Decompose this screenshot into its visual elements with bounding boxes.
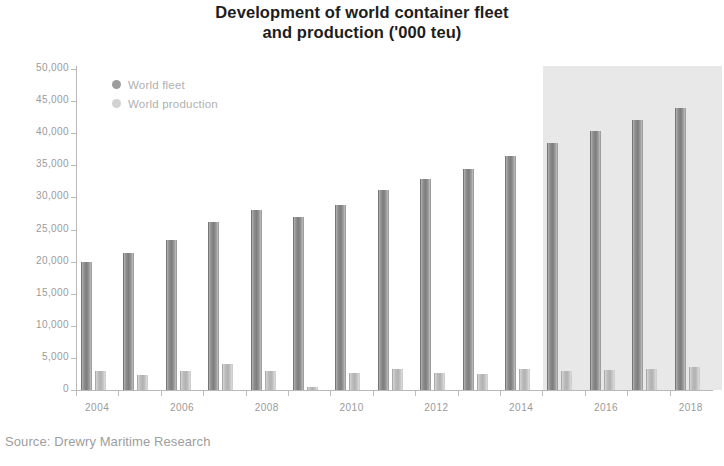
x-axis-tick (203, 391, 204, 396)
legend-dot-production-icon (112, 99, 121, 108)
legend-dot-fleet-icon (112, 80, 121, 89)
x-axis-label: 2004 (85, 402, 109, 413)
bar-world-fleet (420, 179, 431, 390)
y-axis-tick (71, 262, 77, 263)
bar-world-fleet (378, 190, 389, 390)
chart-title: Development of world container fleet and… (0, 2, 724, 42)
x-axis-label: 2016 (594, 402, 618, 413)
x-axis-label: 2008 (255, 402, 279, 413)
x-axis-tick (76, 391, 77, 396)
x-axis-label: 2012 (424, 402, 448, 413)
y-axis-tick (71, 230, 77, 231)
x-axis-tick (118, 391, 119, 396)
legend-label-world-production: World production (128, 98, 218, 110)
bar-world-production (349, 373, 360, 390)
bar-world-production (477, 374, 488, 390)
y-axis-label: 30,000 (5, 190, 69, 201)
x-axis-label: 2010 (339, 402, 363, 413)
y-axis-label: 35,000 (5, 158, 69, 169)
bar-world-fleet (166, 240, 177, 390)
bar-world-fleet (81, 262, 92, 390)
bar-world-fleet (590, 131, 601, 390)
x-axis-tick (500, 391, 501, 396)
y-axis-tick (71, 197, 77, 198)
chart-title-line-1: Development of world container fleet (0, 2, 724, 22)
x-axis-tick (330, 391, 331, 396)
y-axis-label: 45,000 (5, 94, 69, 105)
plot-area (76, 69, 712, 390)
source-note: Source: Drewry Maritime Research (5, 434, 210, 449)
y-axis-label: 40,000 (5, 126, 69, 137)
y-axis-label: 0 (5, 383, 69, 394)
bar-world-production (180, 371, 191, 390)
bar-world-production (519, 369, 530, 390)
chart-legend: World fleet World production (112, 76, 218, 114)
x-axis-label: 2014 (509, 402, 533, 413)
bar-world-fleet (208, 222, 219, 390)
x-axis-tick (627, 391, 628, 396)
bar-world-fleet (293, 217, 304, 390)
x-axis-tick (415, 391, 416, 396)
y-axis-label: 50,000 (5, 62, 69, 73)
bar-world-fleet (632, 120, 643, 390)
y-axis-label: 20,000 (5, 255, 69, 266)
bar-world-production (434, 373, 445, 390)
y-axis-label: 25,000 (5, 223, 69, 234)
bar-world-production (265, 371, 276, 390)
x-axis-label: 2018 (679, 402, 703, 413)
bar-world-fleet (335, 205, 346, 390)
x-axis-tick (585, 391, 586, 396)
x-axis-tick (246, 391, 247, 396)
y-axis-tick (71, 69, 77, 70)
bar-world-production (95, 371, 106, 390)
bar-world-production (222, 364, 233, 390)
y-axis-tick (71, 294, 77, 295)
bar-world-fleet (547, 143, 558, 390)
bar-world-production (604, 370, 615, 390)
y-axis-tick (71, 165, 77, 166)
x-axis-line (76, 390, 713, 391)
legend-item-world-production[interactable]: World production (112, 95, 218, 112)
y-axis-label: 5,000 (5, 351, 69, 362)
bar-world-production (561, 371, 572, 390)
y-axis-tick (71, 358, 77, 359)
x-axis-tick (288, 391, 289, 396)
y-axis-label: 10,000 (5, 319, 69, 330)
y-axis-tick (71, 101, 77, 102)
chart-title-line-2: and production ('000 teu) (0, 22, 724, 42)
bar-world-production (689, 367, 700, 390)
x-axis-tick (161, 391, 162, 396)
x-axis-tick (542, 391, 543, 396)
bar-world-production (392, 369, 403, 390)
bar-world-fleet (123, 253, 134, 390)
y-axis-tick (71, 326, 77, 327)
y-axis-tick (71, 390, 77, 391)
x-axis-label: 2006 (170, 402, 194, 413)
x-axis-tick (373, 391, 374, 396)
bar-world-fleet (505, 156, 516, 390)
bar-world-fleet (675, 108, 686, 390)
chart-container: Development of world container fleet and… (0, 0, 724, 466)
legend-item-world-fleet[interactable]: World fleet (112, 76, 218, 93)
y-axis-tick (71, 133, 77, 134)
y-axis-labels: 05,00010,00015,00020,00025,00030,00035,0… (0, 0, 69, 466)
x-axis-tick (670, 391, 671, 396)
bar-world-fleet (251, 210, 262, 390)
bar-world-fleet (463, 169, 474, 390)
x-axis-tick (458, 391, 459, 396)
y-axis-label: 15,000 (5, 287, 69, 298)
legend-label-world-fleet: World fleet (128, 79, 185, 91)
bar-world-production (137, 375, 148, 390)
bar-world-production (646, 369, 657, 390)
